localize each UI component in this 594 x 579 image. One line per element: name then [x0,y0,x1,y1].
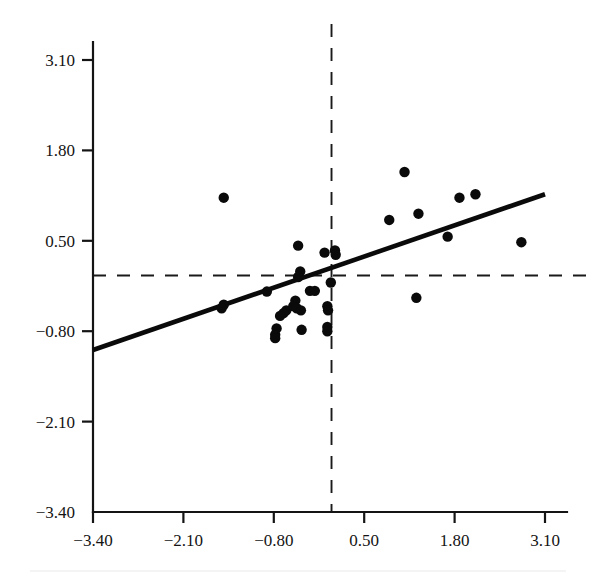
data-point [293,272,303,282]
y-tick-label: −3.40 [36,503,75,522]
data-point [322,326,332,336]
data-point [219,192,229,202]
data-point [216,303,226,313]
data-point [293,240,303,250]
x-tick-label: −3.40 [73,531,112,550]
y-tick-label: −2.10 [36,413,75,432]
data-point [326,277,336,287]
data-point [296,325,306,335]
x-tick-label: 0.50 [349,531,379,550]
y-tick-label: 3.10 [45,51,75,70]
data-point [330,250,340,260]
data-point [270,333,280,343]
data-point [442,231,452,241]
data-point [384,215,394,225]
x-tick-label: 3.10 [530,531,560,550]
data-point [470,189,480,199]
data-point [262,286,272,296]
data-point [275,311,285,321]
y-tick-label: 1.80 [45,141,75,160]
x-tick-label: 1.80 [440,531,470,550]
data-point [319,247,329,257]
data-point [413,208,423,218]
data-point [323,305,333,315]
data-point [296,305,306,315]
data-point [399,167,409,177]
data-point [454,192,464,202]
x-tick-label: −0.80 [254,531,293,550]
data-point [516,237,526,247]
plot-canvas: −3.40−2.10−0.800.501.803.10 −3.40−2.10−0… [0,0,594,579]
data-point [411,293,421,303]
y-tick-label: −0.80 [36,322,75,341]
y-tick-label: 0.50 [45,232,75,251]
scatter-plot-figure: −3.40−2.10−0.800.501.803.10 −3.40−2.10−0… [0,0,594,579]
plot-background [0,0,594,579]
x-tick-label: −2.10 [164,531,203,550]
data-point [310,286,320,296]
